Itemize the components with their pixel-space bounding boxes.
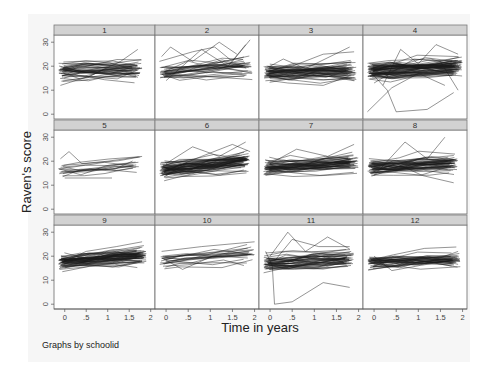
panel-label: 3: [309, 26, 314, 35]
x-tick-label: 1: [416, 313, 420, 322]
panel-school-3: 3: [259, 25, 363, 119]
x-tick-label: .5: [185, 313, 191, 322]
panel-school-8: 8: [363, 120, 467, 214]
y-tick-label: 10: [41, 86, 50, 94]
y-tick-label: 0: [41, 207, 50, 211]
panel-label: 12: [411, 216, 420, 225]
plot-area: [155, 225, 259, 309]
x-tick-label: 1: [106, 313, 110, 322]
trellis-chart: 123456789101112 010203001020300102030 0.…: [0, 0, 495, 375]
panel-school-11: 11: [259, 215, 363, 309]
y-axes: 010203001020300102030: [41, 38, 54, 306]
y-tick-label: 0: [41, 302, 50, 306]
panel-label: 8: [413, 121, 418, 130]
x-tick-label: 0: [372, 313, 376, 322]
panel-school-1: 1: [54, 25, 155, 119]
x-tick-label: 1: [208, 313, 212, 322]
x-tick-label: 2: [460, 313, 464, 322]
panel-label: 1: [102, 26, 107, 35]
y-tick-label: 20: [41, 252, 50, 260]
panel-school-12: 12: [363, 215, 467, 309]
x-tick-label: 2: [149, 313, 153, 322]
x-tick-label: 1: [312, 313, 316, 322]
y-tick-label: 20: [41, 62, 50, 70]
x-tick-label: 1.5: [331, 313, 341, 322]
panel-school-4: 4: [363, 25, 467, 119]
y-tick-label: 0: [41, 112, 50, 116]
x-tick-label: 0: [164, 313, 168, 322]
by-group-note: Graphs by schoolid: [42, 340, 119, 350]
y-tick-label: 10: [41, 276, 50, 284]
plot-area: [363, 35, 467, 119]
y-tick-label: 30: [41, 38, 50, 46]
panel-label: 2: [205, 26, 210, 35]
x-tick-label: 2: [356, 313, 360, 322]
panel-label: 4: [413, 26, 418, 35]
panel-grid: 123456789101112: [54, 25, 467, 309]
panel-school-5: 5: [54, 120, 155, 214]
panel-school-9: 9: [54, 215, 155, 309]
x-tick-label: .5: [393, 313, 399, 322]
panel-school-10: 10: [155, 215, 259, 309]
y-tick-label: 30: [41, 228, 50, 236]
panel-school-7: 7: [259, 120, 363, 214]
x-axis-title: Time in years: [221, 320, 299, 335]
x-tick-label: .5: [83, 313, 89, 322]
x-tick-label: 1.5: [435, 313, 445, 322]
panel-label: 10: [203, 216, 212, 225]
x-tick-label: 1.5: [124, 313, 134, 322]
panel-label: 11: [307, 216, 316, 225]
panel-label: 6: [205, 121, 210, 130]
panel-label: 7: [309, 121, 314, 130]
panel-label: 5: [102, 121, 107, 130]
panel-school-2: 2: [155, 25, 259, 119]
y-tick-label: 20: [41, 157, 50, 165]
y-tick-label: 30: [41, 133, 50, 141]
x-tick-label: 0: [63, 313, 67, 322]
y-axis-title: Raven's score: [19, 131, 34, 213]
panel-school-6: 6: [155, 120, 259, 214]
y-tick-label: 10: [41, 181, 50, 189]
panel-label: 9: [102, 216, 107, 225]
